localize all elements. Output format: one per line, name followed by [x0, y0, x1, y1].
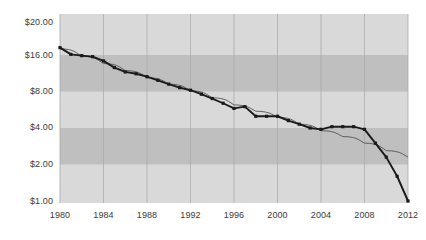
data-point-marker [102, 59, 105, 62]
data-point-marker [222, 102, 225, 105]
y-tick-label: $4.00 [30, 122, 53, 132]
data-point-marker [287, 119, 290, 122]
x-tick-label: 2004 [311, 210, 331, 220]
data-point-marker [232, 107, 235, 110]
data-point-marker [298, 123, 301, 126]
data-point-marker [385, 156, 388, 159]
data-point-marker [406, 199, 409, 202]
data-point-marker [211, 97, 214, 100]
data-point-marker [396, 175, 399, 178]
y-tick-label: $16.00 [25, 50, 53, 60]
data-point-marker [330, 125, 333, 128]
data-point-marker [309, 126, 312, 129]
data-point-marker [91, 55, 94, 58]
data-point-marker [363, 128, 366, 131]
x-tick-label: 2012 [398, 210, 418, 220]
data-point-marker [156, 79, 159, 82]
data-point-marker [145, 75, 148, 78]
data-point-marker [276, 115, 279, 118]
chart-container: $20.00 $16.00 $8.00 $4.00 $2.00 $1.00 19… [0, 0, 426, 240]
y-tick-label: $20.00 [25, 17, 53, 27]
x-tick-label: 1992 [180, 210, 200, 220]
data-point-marker [135, 72, 138, 75]
x-tick-label: 2000 [267, 210, 287, 220]
data-point-marker [80, 54, 83, 57]
data-point-marker [243, 105, 246, 108]
y-tick-label: $1.00 [30, 196, 53, 206]
data-point-marker [374, 142, 377, 145]
data-point-marker [69, 53, 72, 56]
data-point-marker [200, 93, 203, 96]
data-point-marker [124, 70, 127, 73]
data-point-marker [58, 46, 61, 49]
data-point-marker [265, 115, 268, 118]
x-tick-label: 1984 [93, 210, 113, 220]
x-tick-label: 1996 [224, 210, 244, 220]
y-tick-label: $8.00 [30, 86, 53, 96]
data-point-marker [167, 83, 170, 86]
x-tick-label: 1980 [50, 210, 70, 220]
data-point-marker [113, 66, 116, 69]
line-chart: $20.00 $16.00 $8.00 $4.00 $2.00 $1.00 19… [0, 0, 426, 240]
y-axis-ticks: $20.00 $16.00 $8.00 $4.00 $2.00 $1.00 [25, 17, 53, 206]
x-tick-label: 2008 [354, 210, 374, 220]
x-axis-ticks: 1980 1984 1988 1992 1996 2000 2004 2008 … [50, 210, 418, 220]
data-point-marker [189, 89, 192, 92]
y-tick-label: $2.00 [30, 159, 53, 169]
data-point-marker [352, 125, 355, 128]
x-tick-label: 1988 [137, 210, 157, 220]
data-point-marker [341, 125, 344, 128]
data-point-marker [254, 115, 257, 118]
data-point-marker [178, 86, 181, 89]
data-point-marker [319, 128, 322, 131]
